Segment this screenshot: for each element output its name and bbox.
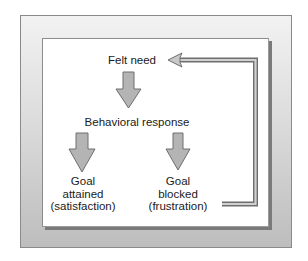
goal-blocked-line2: blocked bbox=[140, 188, 216, 201]
goal-blocked-line1: Goal bbox=[140, 175, 216, 188]
arrow-down-icon bbox=[116, 72, 141, 108]
node-behavioral-response: Behavioral response bbox=[78, 116, 196, 129]
node-goal-blocked: Goal blocked (frustration) bbox=[140, 175, 216, 213]
arrow-down-icon bbox=[69, 133, 95, 172]
node-goal-attained: Goal attained (satisfaction) bbox=[44, 175, 122, 213]
arrow-down-icon bbox=[166, 133, 190, 170]
goal-attained-line1: Goal bbox=[44, 175, 122, 188]
goal-attained-line2: attained bbox=[44, 188, 122, 201]
node-felt-need: Felt need bbox=[100, 54, 164, 67]
diagram-arrows bbox=[0, 0, 308, 261]
goal-blocked-line3: (frustration) bbox=[140, 200, 216, 213]
goal-attained-line3: (satisfaction) bbox=[44, 200, 122, 213]
